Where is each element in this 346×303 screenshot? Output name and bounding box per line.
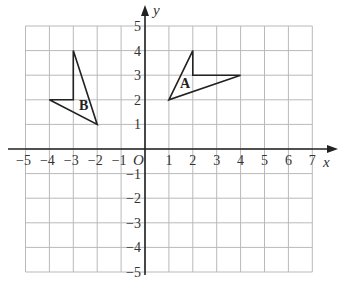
y-tick-label: 5 — [134, 19, 141, 34]
x-tick-label: 3 — [213, 153, 220, 168]
x-tick-label: −1 — [112, 153, 127, 168]
origin-label: O — [133, 152, 144, 168]
y-axis-arrow-icon — [141, 5, 149, 16]
x-tick-label: 2 — [189, 153, 196, 168]
x-tick-label: −5 — [16, 153, 31, 168]
y-tick-label: 3 — [134, 68, 141, 83]
y-axis-label: y — [151, 2, 160, 18]
x-axis-label: x — [322, 154, 330, 170]
x-tick-label: −4 — [40, 153, 55, 168]
x-tick-label: 5 — [261, 153, 268, 168]
x-tick-label: 6 — [285, 153, 292, 168]
y-tick-label: −4 — [126, 240, 141, 255]
y-tick-label: −3 — [126, 216, 141, 231]
y-tick-label: −2 — [126, 191, 141, 206]
x-tick-label: 7 — [309, 153, 316, 168]
y-tick-label: −5 — [126, 265, 141, 280]
x-tick-label: −3 — [64, 153, 79, 168]
y-tick-label: 1 — [134, 117, 141, 132]
coordinate-grid: −5−4−3−2−1123456754321−1−2−3−4−5 x y O A… — [0, 0, 346, 303]
x-tick-label: 1 — [165, 153, 172, 168]
x-axis-arrow-icon — [327, 145, 338, 153]
shape-a-label: A — [180, 76, 191, 91]
x-tick-label: −2 — [88, 153, 103, 168]
y-tick-label: 2 — [134, 93, 141, 108]
x-tick-label: 4 — [237, 153, 244, 168]
shape-b-label: B — [79, 98, 88, 113]
y-tick-label: −1 — [126, 167, 141, 182]
y-tick-label: 4 — [134, 44, 141, 59]
